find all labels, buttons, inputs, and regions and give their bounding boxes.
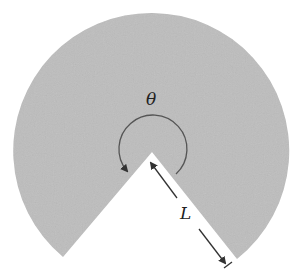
length-end-tick	[224, 262, 232, 268]
sector-diagram	[0, 0, 300, 277]
theta-label: θ	[146, 89, 156, 109]
sector-shape	[13, 13, 289, 259]
length-label: L	[180, 203, 191, 223]
